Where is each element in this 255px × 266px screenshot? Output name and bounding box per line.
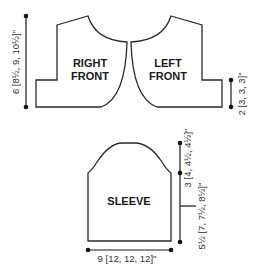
dimension-endpoint-dot <box>178 240 183 245</box>
sleeve-cap-label: 3 [4, 4½, 4½]" <box>182 129 193 188</box>
front-length-label: 6 [8½, 9, 10½]" <box>10 30 21 94</box>
right-front-label-line1: RIGHT <box>73 57 108 69</box>
sleeve-width-dimension: 9 [12, 12, 12]" <box>86 248 174 264</box>
sleeve-height-dimensions: 3 [4, 4½, 4½]" 5½ [7, 7½, 8½]" <box>178 129 207 250</box>
dimension-endpoint-dot <box>229 78 234 83</box>
sleeve-outline <box>88 143 171 241</box>
front-lower-label: 2 [3, 3, 3]" <box>236 73 247 116</box>
dimension-endpoint-dot <box>24 14 29 19</box>
sleeve-length-label: 5½ [7, 7½, 8½]" <box>196 183 207 250</box>
right-front-label-line2: FRONT <box>71 70 109 82</box>
sleeve-width-label: 9 [12, 12, 12]" <box>98 253 157 264</box>
left-front-piece: LEFT FRONT <box>131 16 222 107</box>
dimension-endpoint-dot <box>86 248 91 253</box>
left-front-label-line1: LEFT <box>154 57 182 69</box>
knitting-schematic: RIGHT FRONT LEFT FRONT 6 [8½, 9, 10½]" 2… <box>0 0 255 266</box>
left-front-label-line2: FRONT <box>149 70 187 82</box>
front-lower-dimension: 2 [3, 3, 3]" <box>229 73 247 116</box>
sleeve-piece: SLEEVE <box>88 143 171 241</box>
dimension-endpoint-dot <box>229 105 234 110</box>
right-front-piece: RIGHT FRONT <box>36 16 127 107</box>
dimension-endpoint-dot <box>24 105 29 110</box>
dimension-endpoint-dot <box>169 248 174 253</box>
sleeve-label: SLEEVE <box>107 195 150 207</box>
front-length-dimension: 6 [8½, 9, 10½]" <box>10 14 28 110</box>
